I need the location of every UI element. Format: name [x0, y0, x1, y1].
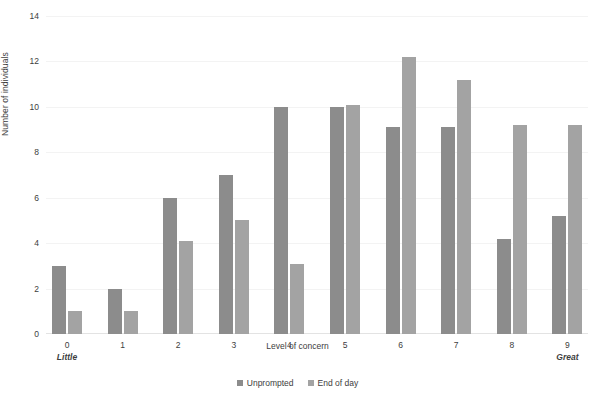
bar	[179, 241, 193, 334]
bar-group	[108, 16, 138, 334]
bar	[568, 125, 582, 334]
legend-item[interactable]: Unprompted	[237, 378, 294, 388]
bar	[52, 266, 66, 334]
bar	[290, 264, 304, 334]
y-tick-label: 8	[19, 147, 39, 157]
bar	[235, 220, 249, 334]
y-tick-label: 4	[19, 238, 39, 248]
bar	[163, 198, 177, 334]
bar	[68, 311, 82, 334]
bar	[346, 105, 360, 334]
bar	[124, 311, 138, 334]
bar-group	[441, 16, 471, 334]
bar-group	[274, 16, 304, 334]
bar	[441, 127, 455, 334]
bar-group	[497, 16, 527, 334]
bar	[497, 239, 511, 334]
legend-swatch-icon	[308, 380, 314, 386]
legend-swatch-icon	[237, 380, 243, 386]
bar-group	[552, 16, 582, 334]
bar	[219, 175, 233, 334]
bar-group	[330, 16, 360, 334]
bar	[402, 57, 416, 334]
legend-label: Unprompted	[247, 378, 294, 388]
y-tick-label: 10	[19, 102, 39, 112]
y-tick-label: 0	[19, 329, 39, 339]
bar	[108, 289, 122, 334]
legend-item[interactable]: End of day	[308, 378, 359, 388]
bar-group	[52, 16, 82, 334]
x-axis-high-anchor-label: Great	[539, 352, 595, 362]
x-axis-title: Level of concern	[0, 341, 595, 351]
y-axis-title: Number of individuals	[0, 0, 16, 136]
x-axis-low-anchor-label: Little	[39, 352, 95, 362]
bar-group	[386, 16, 416, 334]
y-tick-label: 12	[19, 56, 39, 66]
bar-chart: Number of individuals 02468101214 0Littl…	[0, 0, 595, 398]
bar	[457, 80, 471, 334]
y-tick-label: 14	[19, 11, 39, 21]
chart-legend: UnpromptedEnd of day	[0, 378, 595, 388]
bar-group	[219, 16, 249, 334]
bar	[330, 107, 344, 334]
bar	[552, 216, 566, 334]
y-tick-label: 6	[19, 193, 39, 203]
bar	[274, 107, 288, 334]
y-tick-label: 2	[19, 284, 39, 294]
bar-group	[163, 16, 193, 334]
legend-label: End of day	[318, 378, 359, 388]
plot-area	[46, 16, 588, 334]
bar	[386, 127, 400, 334]
bar	[513, 125, 527, 334]
